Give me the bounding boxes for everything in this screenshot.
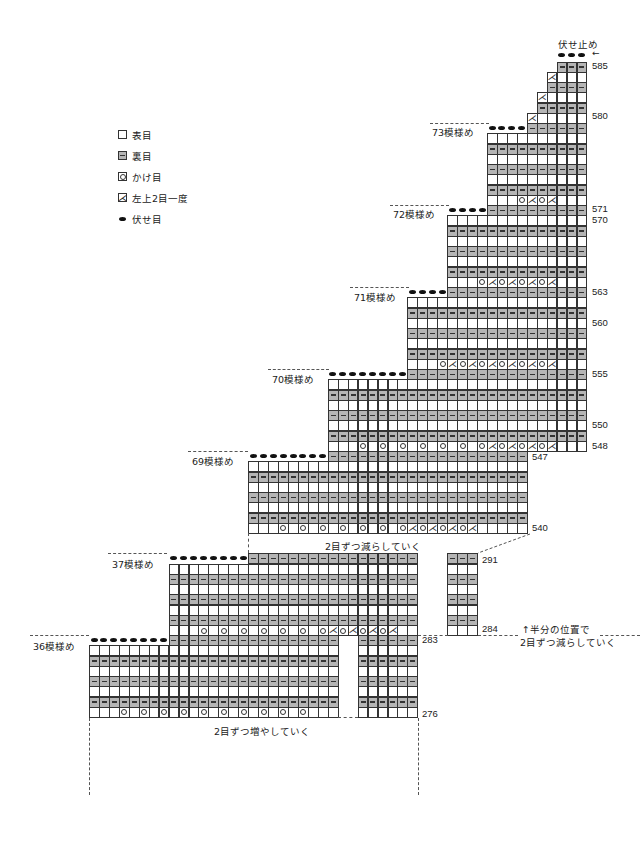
yarn-over-icon [340,525,346,531]
yarn-over-icon [440,443,446,449]
yarn-over-icon [300,709,306,715]
k2tog-icon: ⋌ [548,278,557,287]
dashed-guide-line [248,533,249,553]
bind-off-dot-icon [190,556,197,560]
bind-off-dot-icon [280,454,287,458]
bind-off-dot-icon [339,372,346,376]
k2tog-icon: ⋌ [468,524,477,533]
yarn-over-icon [380,443,386,449]
row-number: 571 [592,203,608,214]
section-label: 36模様め [33,639,75,653]
yarn-over-icon [499,279,505,285]
bind-off-dot-icon [210,556,217,560]
bind-off-dot-icon [230,556,237,560]
bind-off-dot-icon [379,372,386,376]
bind-off-dot-icon [290,454,297,458]
row-number: 585 [592,60,608,71]
k2tog-icon: ⋌ [428,524,437,533]
yarn-over-icon [300,628,306,634]
yarn-over-icon [400,525,406,531]
bind-off-dot-icon [140,638,147,642]
dashed-guide-line [350,287,409,288]
k2tog-icon: ⋌ [488,278,497,287]
increase-note: 2目ずつ増やしていく [214,724,310,738]
k2tog-icon: ⋌ [528,360,537,369]
row-number: 276 [422,708,438,719]
bind-off-dot-icon [419,290,426,294]
knit-cell [577,441,588,452]
legend-item-bind-off: 伏せ目 [118,208,188,229]
yarn-over-icon [519,197,525,203]
yarn-over-icon [440,361,446,367]
bind-off-dot-icon [299,454,306,458]
yarn-over-icon [280,525,286,531]
k2tog-icon: ⋌ [548,196,557,205]
k2tog-icon: ⋌ [448,524,457,533]
decrease-note: 2目ずつ減らしていく [325,539,421,553]
yarn-over-icon [539,443,545,449]
row-number: 291 [482,554,498,565]
legend-label: 表目 [132,128,152,142]
bind-off-dot-icon [459,208,466,212]
k2tog-icon: ⋌ [488,442,497,451]
yarn-over-icon [360,628,366,634]
dashed-guide-line [30,635,89,636]
bind-off-dot-icon [399,372,406,376]
yarn-over-icon [479,279,485,285]
section-label: 70模様め [272,372,314,386]
legend-label: 左上2目一度 [132,191,188,205]
bind-off-dot-icon [429,290,436,294]
bind-off-dot-icon [439,290,446,294]
yarn-over-icon [360,443,366,449]
k2tog-icon: ⋌ [528,442,537,451]
k2tog-icon: ⋌ [508,360,517,369]
half-position-note-2: 2目ずつ減らしていく [520,635,616,649]
bind-off-dot-icon [120,638,127,642]
bind-off-dot-icon [250,454,257,458]
dashed-guide-line [338,717,358,718]
dashed-guide-line [478,635,518,636]
section-label: 73模様め [432,125,474,139]
dashed-guide-line [600,635,640,636]
bind-off-dot-icon [469,208,476,212]
yarn-over-icon [261,709,267,715]
yarn-over-icon [300,525,306,531]
yarn-over-icon [201,628,207,634]
yarn-over-icon [519,443,525,449]
yarn-over-icon [360,525,366,531]
yarn-over-icon [420,443,426,449]
knit-cell [517,523,528,534]
yarn-over-icon [320,628,326,634]
knitting-chart: 伏せ止め ← 表目 裏目 かけ目 ⋌ 左上2目一度 伏せ目 2目ずつ減らしていく… [0,0,644,842]
bind-off-dot-icon [498,126,505,130]
arrow-left-icon: ← [592,48,600,58]
bind-off-dot-icon [369,372,376,376]
yarn-over-icon [539,279,545,285]
half-position-note: ↑半分の位置で [522,622,590,636]
dashed-guide-line [430,123,489,124]
dashed-guide-line [418,635,448,636]
bind-off-dot-icon [220,556,227,560]
legend-label: 裏目 [132,149,152,163]
yarn-over-icon [499,443,505,449]
yarn-over-icon [118,172,127,181]
yarn-over-icon [380,525,386,531]
bind-off-dot-icon [558,53,565,57]
k2tog-icon: ⋌ [408,524,417,533]
k2tog-icon: ⋌ [508,442,517,451]
knit-cell [407,707,418,718]
k2tog-icon: ⋌ [538,93,547,102]
yarn-over-icon [460,443,466,449]
knit-cell [328,707,339,718]
bind-off-dot-icon [91,638,98,642]
knit-cell [467,625,478,636]
bind-off-dot-icon [449,208,456,212]
bind-off-dot-icon [389,372,396,376]
dashed-guide-line [108,553,167,554]
yarn-over-icon [141,709,147,715]
bind-off-dot-icon [359,372,366,376]
bind-off-dot-icon [329,372,336,376]
dashed-guide-line [268,369,329,370]
yarn-over-icon [280,709,286,715]
bind-off-dot-icon [508,126,515,130]
